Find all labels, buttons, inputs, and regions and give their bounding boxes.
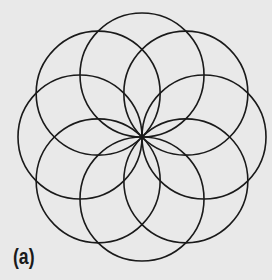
figure-label: (a)	[13, 244, 35, 270]
circle	[36, 31, 160, 155]
rosette-diagram	[0, 0, 272, 280]
circle-group	[18, 13, 266, 261]
